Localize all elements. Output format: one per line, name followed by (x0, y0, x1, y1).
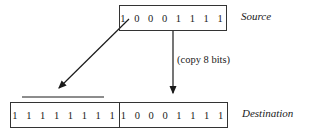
destination-high-byte: 1 1 1 1 1 1 1 1 (10, 102, 120, 128)
source-register: 1 0 0 0 1 1 1 1 (119, 5, 227, 31)
destination-high-bits: 1 1 1 1 1 1 1 1 (12, 110, 117, 121)
source-label: Source (241, 10, 271, 22)
destination-low-byte: 1 0 0 0 1 1 1 1 (119, 102, 228, 128)
copy-annotation: (copy 8 bits) (177, 54, 230, 65)
source-bits: 1 0 0 0 1 1 1 1 (120, 13, 225, 24)
destination-low-bits: 1 0 0 0 1 1 1 1 (121, 110, 226, 121)
destination-label: Destination (242, 107, 293, 119)
